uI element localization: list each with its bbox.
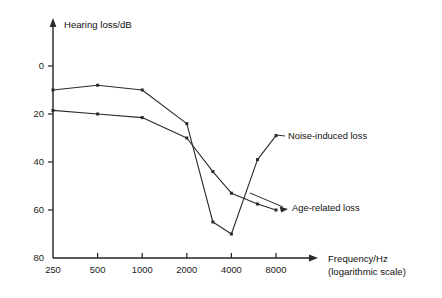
audiogram-chart: 020406080 2505001000200040008000 Hearing…	[0, 0, 442, 298]
axes-group	[50, 18, 318, 261]
x-tick-label-500: 500	[90, 264, 106, 275]
data-point	[211, 221, 214, 224]
data-point	[230, 233, 233, 236]
x-axis-subtitle: (logarithmic scale)	[328, 266, 406, 277]
chart-container: 020406080 2505001000200040008000 Hearing…	[0, 0, 442, 298]
x-axis-arrowhead	[309, 255, 318, 262]
data-point	[141, 116, 144, 119]
y-tick-label-80: 80	[34, 252, 44, 263]
x-axis-title: Frequency/Hz	[328, 253, 388, 264]
annotation-group: Noise-induced loss Age-related loss	[250, 130, 368, 213]
y-axis-arrowhead	[50, 18, 57, 27]
data-point	[96, 84, 99, 87]
x-tick-label-4000: 4000	[221, 264, 242, 275]
y-tick-label-0: 0	[39, 60, 44, 71]
x-tick-group: 2505001000200040008000	[45, 253, 286, 275]
x-tick-label-250: 250	[45, 264, 61, 275]
age-leader-line	[250, 193, 283, 207]
x-tick-label-8000: 8000	[266, 264, 287, 275]
data-point	[230, 192, 233, 195]
y-tick-label-20: 20	[34, 108, 44, 119]
series-group	[52, 84, 278, 236]
data-point	[52, 89, 55, 92]
x-tick-label-2000: 2000	[176, 264, 197, 275]
series-line-age-related	[53, 110, 276, 210]
data-point	[256, 203, 259, 206]
data-point	[141, 89, 144, 92]
series-line-noise-induced	[53, 85, 276, 234]
data-point	[185, 137, 188, 140]
age-leader-arrowhead	[280, 207, 288, 213]
data-point	[211, 170, 214, 173]
x-tick-label-1000: 1000	[132, 264, 153, 275]
data-point	[185, 122, 188, 125]
data-point	[256, 158, 259, 161]
y-tick-label-40: 40	[34, 156, 44, 167]
y-tick-label-60: 60	[34, 204, 44, 215]
data-point	[96, 113, 99, 116]
data-point	[275, 209, 278, 212]
y-axis-title: Hearing loss/dB	[64, 19, 132, 30]
series-label-noise-induced: Noise-induced loss	[288, 130, 368, 141]
data-point	[52, 109, 55, 112]
y-tick-group: 020406080	[34, 60, 53, 263]
series-label-age-related: Age-related loss	[292, 202, 360, 213]
